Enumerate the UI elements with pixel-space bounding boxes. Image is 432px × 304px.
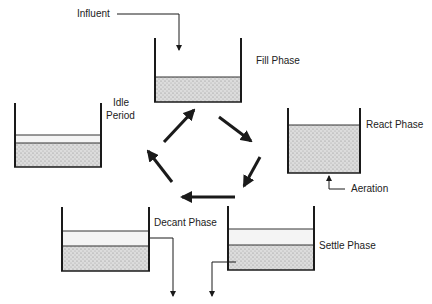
- aeration-pipe: [329, 176, 345, 189]
- sbr-cycle-diagram: [0, 0, 432, 304]
- tank-decant: [61, 207, 150, 271]
- arrow-react-to-settle: [244, 157, 260, 186]
- idle-period-label-line1: Idle: [113, 97, 129, 109]
- arrow-decant-to-idle: [148, 151, 172, 182]
- cycle-arrows: [148, 110, 260, 197]
- tank-idle: [14, 103, 102, 167]
- tank-fill: [154, 38, 242, 102]
- aeration-label: Aeration: [351, 183, 388, 195]
- tank-react: [287, 108, 361, 173]
- arrow-fill-to-react: [219, 117, 251, 141]
- fill-phase-label: Fill Phase: [256, 55, 300, 67]
- decant-phase-label: Decant Phase: [154, 217, 217, 229]
- tank-settle: [227, 206, 315, 270]
- effluent-pipe: [149, 238, 173, 296]
- react-phase-label: React Phase: [366, 119, 423, 131]
- arrow-idle-to-fill: [164, 110, 194, 142]
- settle-phase-label: Settle Phase: [319, 240, 376, 252]
- influent-label: Influent: [77, 8, 110, 20]
- influent-pipe: [117, 14, 179, 50]
- idle-period-label-line2: Period: [106, 110, 135, 122]
